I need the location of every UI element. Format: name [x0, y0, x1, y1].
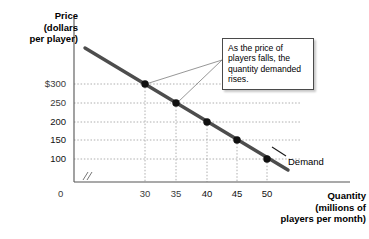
- y-tick-label-150: 150: [24, 134, 66, 145]
- gridlines-vertical: [145, 84, 267, 182]
- data-point-35-250: [172, 99, 179, 106]
- leader-line-to-point-35-250: [177, 60, 222, 103]
- data-point-50-100: [263, 155, 270, 162]
- x-tick-label-45: 45: [224, 188, 250, 199]
- y-tick-label-300: $300: [24, 78, 66, 89]
- gridlines-horizontal: [74, 84, 300, 159]
- demand-series-label: Demand: [288, 156, 324, 167]
- axis-break-marks: [83, 172, 92, 180]
- x-tick-label-50: 50: [254, 188, 280, 199]
- annotation-callout: As the price of players falls, the quant…: [222, 38, 314, 90]
- data-point-45-150: [233, 136, 240, 143]
- y-tick-label-100: 100: [24, 153, 66, 164]
- x-tick-label-35: 35: [163, 188, 189, 199]
- callout-leader-lines: [146, 60, 222, 103]
- data-point-30-300: [141, 80, 148, 87]
- demand-label-pointer: [272, 147, 286, 156]
- y-axis-title: Price (dollars per player): [2, 10, 78, 45]
- origin-label: 0: [58, 188, 63, 199]
- y-tick-label-250: 250: [24, 97, 66, 108]
- demand-curve-figure: Price (dollars per player) Quantity (mil…: [0, 0, 369, 239]
- leader-line-to-point-30-300: [146, 60, 222, 84]
- x-tick-label-40: 40: [194, 188, 220, 199]
- y-tick-label-200: 200: [24, 116, 66, 127]
- data-point-40-200: [203, 118, 210, 125]
- x-tick-label-30: 30: [132, 188, 158, 199]
